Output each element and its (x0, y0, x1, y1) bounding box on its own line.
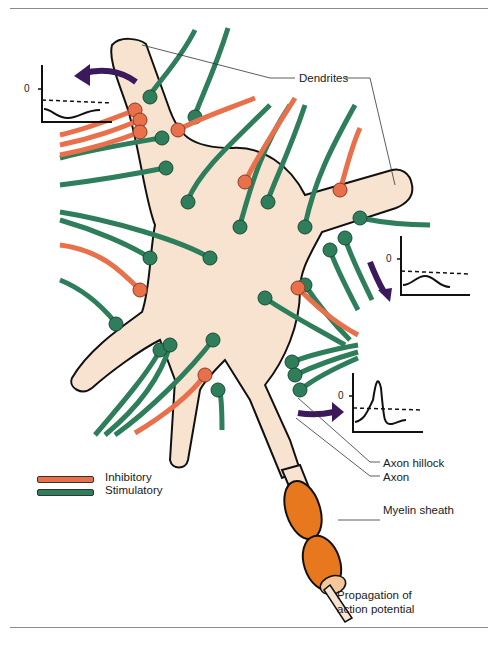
graph-lower-right (349, 373, 423, 432)
graph-upper-left-zero-label: 0 (24, 83, 30, 94)
legend-swatch-stimulatory (37, 489, 94, 496)
legend-label-inhibitory: Inhibitory (105, 470, 152, 484)
label-axon: Axon (383, 470, 409, 484)
label-propagation-line2: action potential (337, 602, 414, 616)
bottom-rule (10, 627, 488, 628)
graph-lower-right-zero-label: 0 (338, 390, 344, 401)
myelin-segment-1 (278, 476, 329, 544)
legend-swatch-inhibitory (37, 476, 94, 483)
label-axon-hillock: Axon hillock (383, 456, 444, 470)
graph-right-zero-label: 0 (386, 253, 392, 264)
label-dendrites: Dendrites (299, 71, 348, 85)
graph-right (397, 236, 470, 295)
label-propagation-line1: Propagation of (337, 588, 412, 602)
arrow-right-icon (370, 262, 384, 292)
label-myelin-sheath: Myelin sheath (383, 503, 454, 517)
legend-label-stimulatory: Stimulatory (105, 483, 163, 497)
neuron-diagram (0, 0, 502, 646)
